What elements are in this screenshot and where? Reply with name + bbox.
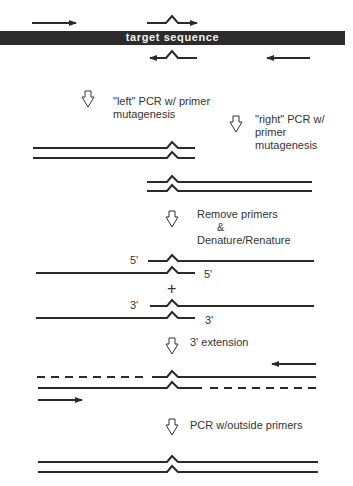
pcr-mutagenesis-diagram bbox=[0, 0, 353, 486]
step-right-pcr-label: "right" PCR w/ primer mutagenesis bbox=[255, 113, 325, 152]
strand-end-label: 3' bbox=[130, 299, 138, 311]
strand-end-label: 5' bbox=[130, 254, 138, 266]
step-remove-primers-label: Remove primers & Denature/Renature bbox=[197, 208, 291, 247]
heteroduplex-1-bottom bbox=[36, 267, 195, 273]
target-sequence-label: target sequence bbox=[0, 31, 345, 44]
heteroduplex-1-top bbox=[148, 255, 314, 261]
step-label-line: "right" PCR w/ bbox=[255, 113, 325, 126]
final-product-strand-bottom bbox=[38, 466, 318, 472]
left-product-strand-top bbox=[33, 142, 195, 148]
hollow-down-arrow-icon bbox=[166, 211, 178, 227]
step-label-line: mutagenesis bbox=[113, 108, 210, 121]
right-product-strand-bottom bbox=[147, 185, 312, 191]
right-product-strand-top bbox=[147, 176, 312, 182]
final-product-strand-top bbox=[38, 456, 318, 462]
step-label-line: Remove primers bbox=[197, 208, 291, 221]
heteroduplex-2-bottom bbox=[36, 312, 195, 318]
hollow-down-arrow-icon bbox=[82, 91, 94, 107]
hollow-down-arrow-icon bbox=[230, 116, 242, 132]
extension-strand-bottom bbox=[38, 382, 202, 388]
strand-end-label: 3' bbox=[205, 314, 213, 326]
step-label-line: Denature/Renature bbox=[197, 234, 291, 247]
mutagenic-forward-primer-icon bbox=[147, 16, 197, 23]
step-outside-pcr-label: PCR w/outside primers bbox=[190, 419, 302, 432]
step-label-line: "left" PCR w/ primer bbox=[113, 95, 210, 108]
extension-strand-top bbox=[152, 371, 316, 377]
step-extension-label: 3' extension bbox=[190, 336, 248, 349]
heteroduplex-2-top bbox=[150, 300, 314, 306]
step-label-line: & bbox=[197, 221, 291, 234]
step-label-line: primer bbox=[255, 126, 325, 139]
mutagenic-reverse-primer-icon bbox=[150, 51, 197, 58]
plus-sign: + bbox=[167, 280, 176, 298]
strand-end-label: 5' bbox=[204, 268, 212, 280]
step-left-pcr-label: "left" PCR w/ primer mutagenesis bbox=[113, 95, 210, 121]
hollow-down-arrow-icon bbox=[166, 338, 178, 354]
hollow-down-arrow-icon bbox=[166, 419, 178, 435]
left-product-strand-bottom bbox=[33, 152, 195, 158]
step-label-line: mutagenesis bbox=[255, 139, 325, 152]
